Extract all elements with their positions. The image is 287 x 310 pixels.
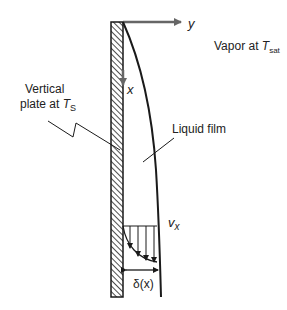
film-interface-curve bbox=[123, 22, 161, 297]
plate-label-line2: plate at TS bbox=[20, 97, 76, 113]
plate-leader-line bbox=[48, 121, 120, 150]
vertical-plate bbox=[111, 22, 123, 297]
velocity-label: vx bbox=[168, 215, 181, 232]
y-axis-label: y bbox=[187, 16, 196, 31]
thickness-label: δ(x) bbox=[133, 277, 154, 291]
liquid-film-leader bbox=[143, 138, 174, 162]
velocity-profile bbox=[123, 226, 157, 262]
condensation-diagram: y x Vapor at Tsat Vertical plate at TS L… bbox=[0, 0, 287, 310]
plate-label-line1: Vertical bbox=[25, 82, 64, 96]
x-axis-label: x bbox=[126, 82, 134, 97]
vapor-label: Vapor at Tsat bbox=[214, 39, 281, 55]
liquid-film-label: Liquid film bbox=[172, 122, 226, 136]
